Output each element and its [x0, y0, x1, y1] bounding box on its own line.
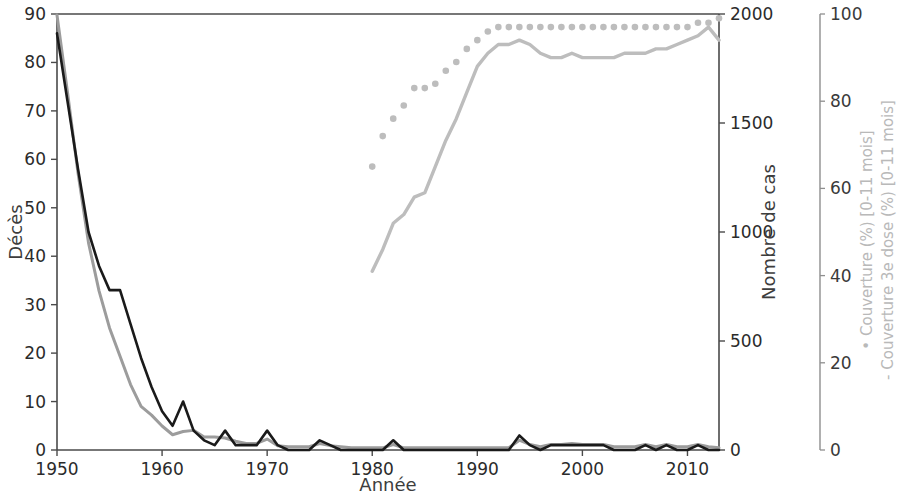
coverage-dot	[579, 24, 586, 31]
coverage-dot	[453, 59, 460, 66]
coverage-dot	[442, 67, 449, 74]
right-axis-coverage-title-line2: - Couverture 3e dose (%) [0-11 mois]	[879, 100, 897, 380]
right-coverage-tick-label: 80	[830, 91, 852, 111]
right-coverage-tick-label: 20	[830, 353, 852, 373]
coverage-dot	[590, 24, 597, 31]
series-layer	[57, 15, 722, 450]
left-axis-ticks: 0102030405060708090	[24, 4, 57, 460]
left-tick-label: 70	[24, 101, 46, 121]
coverage-dot	[411, 85, 418, 92]
coverage-dot	[548, 24, 555, 31]
coverage-dot	[516, 24, 523, 31]
coverage-dot	[379, 133, 386, 140]
left-tick-label: 20	[24, 343, 46, 363]
right-axis-cases-title: Nombre de cas	[758, 164, 779, 300]
coverage-dot	[569, 24, 576, 31]
x-tick-label: 1950	[35, 459, 78, 479]
coverage-dot	[611, 24, 618, 31]
coverage-dot	[464, 46, 471, 53]
coverage-dot	[400, 102, 407, 109]
x-tick-label: 2010	[666, 459, 709, 479]
chart-figure: 0102030405060708090 19501960197019801990…	[0, 0, 906, 495]
right-coverage-tick-label: 100	[830, 4, 862, 24]
coverage-dot	[642, 24, 649, 31]
left-tick-label: 30	[24, 295, 46, 315]
left-tick-label: 10	[24, 392, 46, 412]
right-axis-coverage-ticks: 020406080100	[820, 4, 862, 460]
coverage-dot	[653, 24, 660, 31]
coverage-dot	[506, 24, 513, 31]
coverage-dot	[474, 37, 481, 44]
coverage-dot	[621, 24, 628, 31]
right-cases-tick-label: 2000	[730, 4, 773, 24]
coverage-dot	[695, 19, 702, 26]
coverage-dot	[432, 80, 439, 87]
coverage-dot	[705, 19, 712, 26]
coverage-dot	[495, 24, 502, 31]
coverage-dot	[674, 24, 681, 31]
coverage-dot	[716, 15, 723, 22]
series-line-deces	[57, 33, 719, 450]
right-coverage-tick-label: 0	[830, 440, 841, 460]
left-tick-label: 0	[35, 440, 46, 460]
coverage-dot	[390, 115, 397, 122]
coverage-dot	[369, 163, 376, 170]
series-dots-couverture	[369, 15, 722, 170]
left-axis-title: Décès	[5, 204, 26, 259]
coverage-dot	[684, 24, 691, 31]
x-tick-label: 1990	[456, 459, 499, 479]
coverage-dot	[558, 24, 565, 31]
left-tick-label: 90	[24, 4, 46, 24]
coverage-dot	[663, 24, 670, 31]
x-tick-label: 1970	[246, 459, 289, 479]
left-tick-label: 80	[24, 52, 46, 72]
left-tick-label: 50	[24, 198, 46, 218]
left-tick-label: 40	[24, 246, 46, 266]
plot-frame	[57, 14, 820, 450]
right-cases-tick-label: 500	[730, 331, 762, 351]
coverage-dot	[600, 24, 607, 31]
coverage-dot	[632, 24, 639, 31]
x-tick-label: 2000	[561, 459, 604, 479]
left-tick-label: 60	[24, 149, 46, 169]
right-axis-coverage-title-line1: • Couverture (%) [0-11 mois]	[858, 130, 876, 349]
coverage-dot	[485, 28, 492, 35]
x-tick-label: 1960	[140, 459, 183, 479]
x-axis-title: Année	[359, 474, 416, 495]
right-coverage-tick-label: 60	[830, 178, 852, 198]
coverage-dot	[421, 85, 428, 92]
right-coverage-tick-label: 40	[830, 266, 852, 286]
series-line-nombre-de-cas	[57, 15, 719, 448]
chart-canvas: 0102030405060708090 19501960197019801990…	[0, 0, 906, 495]
series-line-couverture-3e-dose	[372, 27, 719, 271]
coverage-dot	[537, 24, 544, 31]
right-cases-tick-label: 1500	[730, 113, 773, 133]
right-cases-tick-label: 0	[730, 440, 741, 460]
coverage-dot	[527, 24, 534, 31]
